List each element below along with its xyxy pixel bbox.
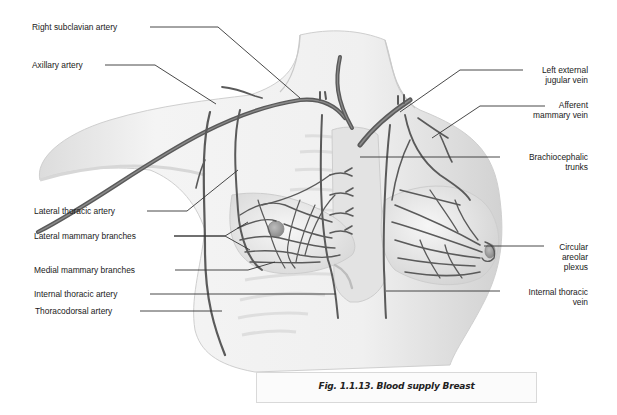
figure-caption-box: Fig. 1.1.13. Blood supply Breast bbox=[256, 372, 537, 403]
sternum bbox=[332, 127, 385, 302]
label-afferent-mammary-vein: Afferent mammary vein bbox=[533, 100, 588, 120]
label-circular-areolar-plexus: Circular areolar plexus bbox=[559, 242, 588, 272]
label-internal-thoracic-vein: Internal thoracic vein bbox=[528, 287, 588, 307]
label-internal-thoracic-artery: Internal thoracic artery bbox=[34, 289, 117, 299]
label-left-external-jugular-vein: Left external jugular vein bbox=[542, 65, 588, 85]
label-medial-mammary-branches: Medial mammary branches bbox=[34, 265, 135, 275]
label-thoracodorsal-artery: Thoracodorsal artery bbox=[35, 306, 112, 316]
label-lateral-thoracic-artery: Lateral thoracic artery bbox=[34, 206, 115, 216]
label-brachiocephalic-trunks: Brachiocephalic trunks bbox=[529, 152, 588, 172]
label-right-subclavian-artery: Right subclavian artery bbox=[32, 22, 117, 32]
label-axillary-artery: Axillary artery bbox=[32, 60, 83, 70]
label-lateral-mammary-branches: Lateral mammary branches bbox=[34, 231, 136, 241]
left-breast bbox=[381, 186, 499, 285]
figure-caption: Fig. 1.1.13. Blood supply Breast bbox=[257, 381, 536, 391]
